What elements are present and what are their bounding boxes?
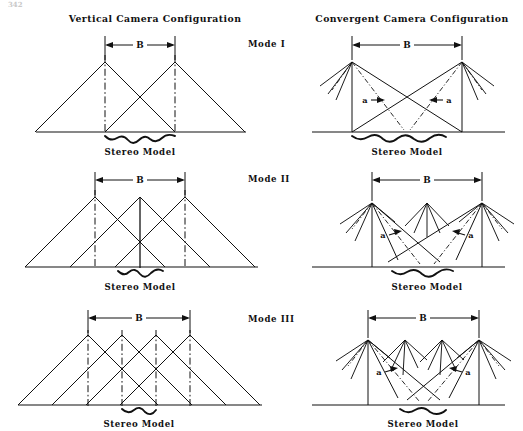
stereo-model-caption: Stereo Model xyxy=(104,419,175,429)
diagram-vertical-mode-3: B Stereo Model xyxy=(18,310,262,429)
mode-label-2: Mode II xyxy=(248,174,290,184)
angle-label-right: a xyxy=(468,230,474,240)
dimension-arrow-right xyxy=(454,42,462,48)
stereo-model-brace xyxy=(400,408,446,414)
angle-marker-right: a xyxy=(429,95,452,105)
dimension-arrow-right xyxy=(471,315,479,321)
dimension-arrow-left xyxy=(372,177,380,183)
optical-axis-2 xyxy=(410,62,462,130)
mode-label-1: Mode I xyxy=(248,39,285,49)
diagram-vertical-mode-2: B Stereo Model xyxy=(25,172,258,292)
angle-label-right: a xyxy=(446,95,452,105)
angle-arrowhead-left xyxy=(377,97,385,103)
figure-camera-configurations: 342 Vertical Camera Configuration Conver… xyxy=(0,0,523,431)
stereo-model-brace xyxy=(118,269,163,276)
angle-arrowhead-left xyxy=(390,366,398,372)
camera-fan-1 xyxy=(320,62,352,100)
mode-label-3: Mode III xyxy=(248,314,295,324)
stereo-model-caption: Stereo Model xyxy=(105,282,176,292)
header-vertical-camera-configuration: Vertical Camera Configuration xyxy=(68,13,242,24)
angle-marker-left: a xyxy=(376,366,398,377)
dimension-arrow-right xyxy=(177,177,185,183)
dimension-arrow-left xyxy=(352,42,360,48)
page-number: 342 xyxy=(8,0,23,9)
angle-arrowhead-right xyxy=(449,366,457,372)
stereo-model-brace xyxy=(392,269,453,276)
angle-arrowhead-right xyxy=(429,97,437,103)
angle-marker-left: a xyxy=(380,229,402,240)
stereo-model-brace xyxy=(105,135,175,143)
dimension-label-b: B xyxy=(403,40,410,50)
header-convergent-camera-configuration: Convergent Camera Configuration xyxy=(315,13,508,24)
dimension-label-b: B xyxy=(135,313,142,323)
camera-fan-1 xyxy=(336,340,390,379)
dimension-label-b: B xyxy=(136,40,143,50)
diagram-vertical-mode-1: B Stereo Model xyxy=(35,36,246,157)
dimension-arrow-left xyxy=(368,315,376,321)
dimension-arrow-left xyxy=(105,42,113,48)
angle-label-left: a xyxy=(376,367,382,377)
dimension-arrow-right xyxy=(167,42,175,48)
dimension-label-b: B xyxy=(423,175,430,185)
dimension-arrow-right xyxy=(474,177,482,183)
diagram-convergent-mode-3: a a B Stereo Model xyxy=(312,310,511,429)
stereo-model-brace xyxy=(122,408,156,414)
dimension-arrow-left xyxy=(88,315,96,321)
camera-fan-2 xyxy=(462,62,494,100)
dimension-arrow-left xyxy=(95,177,103,183)
stereo-model-caption: Stereo Model xyxy=(105,147,176,157)
stereo-model-caption: Stereo Model xyxy=(392,282,463,292)
optical-axis-1 xyxy=(352,62,404,130)
diagram-convergent-mode-2: a a B Stereo Model xyxy=(312,172,514,292)
angle-arrowhead-left xyxy=(394,229,402,235)
dimension-label-b: B xyxy=(136,175,143,185)
angle-marker-left: a xyxy=(352,95,385,106)
diagram-convergent-mode-1: a a B Stereo Model xyxy=(312,36,505,157)
angle-label-left: a xyxy=(362,95,368,105)
angle-marker-right: a xyxy=(452,229,474,240)
camera-configuration-diagram: 342 Vertical Camera Configuration Conver… xyxy=(0,0,523,431)
angle-label-left: a xyxy=(380,230,386,240)
stereo-model-caption: Stereo Model xyxy=(388,419,459,429)
stereo-model-caption: Stereo Model xyxy=(372,147,443,157)
angle-arrowhead-right xyxy=(452,229,460,235)
camera-fan-middle xyxy=(405,203,449,237)
dimension-label-b: B xyxy=(419,313,426,323)
stereo-model-brace xyxy=(352,135,446,142)
dimension-arrow-right xyxy=(182,315,190,321)
angle-label-right: a xyxy=(465,367,471,377)
